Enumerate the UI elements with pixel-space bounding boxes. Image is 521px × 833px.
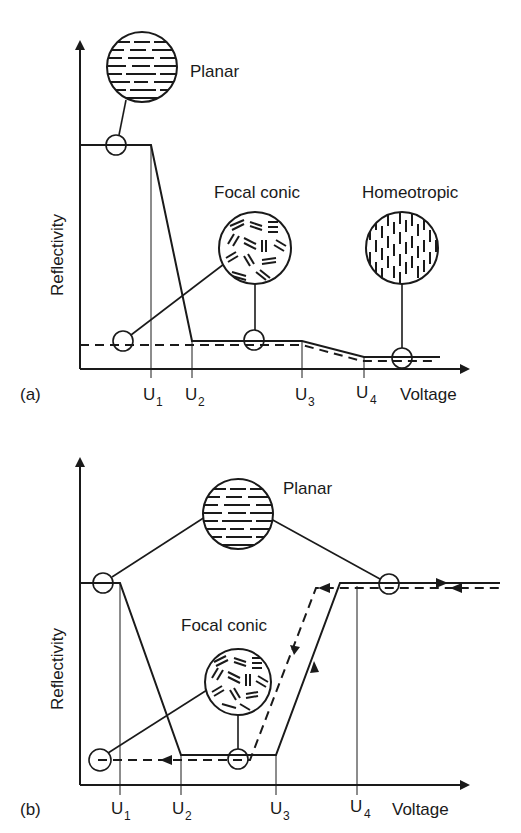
- tick-label-u4-a: U 4: [356, 383, 377, 407]
- label-planar-b: Planar: [283, 479, 332, 498]
- arrow-left-dashed-right-b: [450, 583, 462, 593]
- svg-text:1: 1: [156, 395, 163, 409]
- arrow-left-dashed-high-b: [318, 583, 330, 593]
- arrow-left-dashed-low-b: [160, 755, 172, 765]
- tick-label-u3-a: U 3: [295, 385, 315, 409]
- y-axis-label-b: Reflectivity: [48, 627, 67, 710]
- panel-a: Planar Focal conic: [20, 32, 468, 409]
- focal-conic-texture-icon: [219, 212, 291, 284]
- curve-planar-b: [80, 583, 500, 755]
- tick-label-u2-b: U 2: [172, 799, 192, 823]
- connector-focal-start-b: [108, 690, 207, 753]
- svg-text:U: U: [185, 385, 197, 404]
- arrow-right-solid-high-b: [436, 578, 448, 588]
- panel-label-b: (b): [20, 800, 41, 819]
- y-axis-label-a: Reflectivity: [48, 213, 67, 296]
- connector-planar-end-b: [271, 519, 380, 579]
- svg-text:U: U: [356, 383, 368, 402]
- connector-planar-a: [119, 100, 126, 135]
- label-homeotropic-a: Homeotropic: [362, 183, 459, 202]
- svg-text:1: 1: [124, 809, 131, 823]
- arrow-down-dashed-b: [290, 645, 300, 655]
- tick-label-u3-b: U 3: [270, 799, 290, 823]
- svg-text:3: 3: [283, 809, 290, 823]
- x-axis-label-b: Voltage: [392, 800, 449, 819]
- svg-text:U: U: [270, 799, 282, 818]
- marker-focal-start-a: [113, 331, 133, 351]
- svg-text:U: U: [172, 799, 184, 818]
- focal-conic-texture-icon-b: [205, 649, 271, 715]
- svg-text:U: U: [295, 385, 307, 404]
- curve-focal-conic-a: [80, 345, 436, 361]
- svg-text:U: U: [350, 797, 362, 816]
- cholesteric-reflectivity-figure: Planar Focal conic: [0, 0, 521, 833]
- svg-text:3: 3: [308, 395, 315, 409]
- connector-planar-start-b: [112, 517, 205, 577]
- label-focal-conic-a: Focal conic: [214, 183, 300, 202]
- svg-text:4: 4: [364, 807, 371, 821]
- svg-text:4: 4: [370, 393, 377, 407]
- tick-label-u2-a: U 2: [185, 385, 205, 409]
- planar-texture-icon: [106, 32, 178, 102]
- x-axis-label-a: Voltage: [400, 385, 457, 404]
- label-planar-a: Planar: [190, 62, 239, 81]
- label-focal-conic-b: Focal conic: [181, 616, 267, 635]
- tick-label-u4-b: U 4: [350, 797, 371, 821]
- svg-text:2: 2: [185, 809, 192, 823]
- svg-text:2: 2: [198, 395, 205, 409]
- panel-b: Planar Focal conic Reflectivity Voltage …: [20, 459, 500, 823]
- panel-label-a: (a): [20, 385, 41, 404]
- svg-text:U: U: [143, 385, 155, 404]
- tick-label-u1-b: U 1: [111, 799, 131, 823]
- homeotropic-texture-icon: [366, 212, 438, 284]
- tick-label-u1-a: U 1: [143, 385, 163, 409]
- svg-text:U: U: [111, 799, 123, 818]
- curve-focal-conic-b: [98, 588, 500, 760]
- planar-texture-icon-b: [202, 479, 274, 549]
